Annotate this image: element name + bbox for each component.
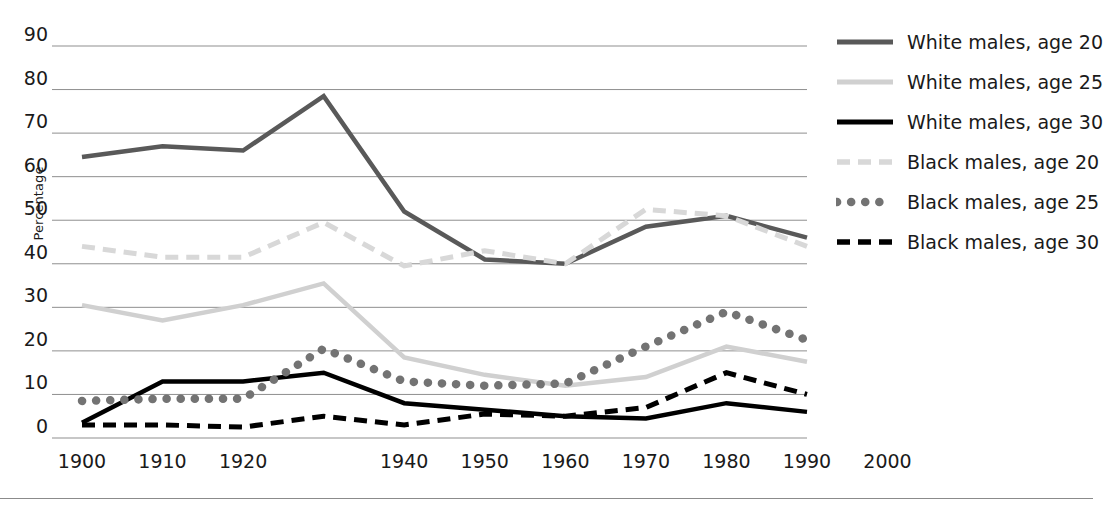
legend-swatch-icon xyxy=(836,155,894,169)
x-tick-label: 1960 xyxy=(530,452,600,471)
legend-item-label: Black males, age 30 xyxy=(907,233,1099,252)
x-tick-label: 2000 xyxy=(853,452,923,471)
x-tick-label: 1910 xyxy=(128,452,198,471)
legend-swatch-icon xyxy=(836,115,894,129)
legend-swatch-icon xyxy=(836,195,894,209)
chart-canvas xyxy=(0,0,830,480)
legend-item-label: Black males, age 25 xyxy=(907,193,1099,212)
x-tick-label: 1900 xyxy=(47,452,117,471)
x-tick-label: 1970 xyxy=(611,452,681,471)
legend-item-label: White males, age 30 xyxy=(907,113,1103,132)
x-tick-label: 1940 xyxy=(369,452,439,471)
legend-item-label: White males, age 25 xyxy=(907,73,1103,92)
x-tick-label: 1920 xyxy=(208,452,278,471)
y-tick-label: 90 xyxy=(8,25,48,44)
legend-item[interactable]: White males, age 20 xyxy=(836,22,1088,62)
legend-swatch-icon xyxy=(836,75,894,89)
x-tick-label: 1990 xyxy=(772,452,842,471)
y-tick-label: 10 xyxy=(8,373,48,392)
x-tick-label: 1980 xyxy=(691,452,761,471)
y-tick-label: 50 xyxy=(8,199,48,218)
y-tick-label: 30 xyxy=(8,286,48,305)
legend-item[interactable]: White males, age 25 xyxy=(836,62,1088,102)
y-tick-label: 40 xyxy=(8,243,48,262)
legend-item[interactable]: Black males, age 25 xyxy=(836,182,1088,222)
legend-item-label: Black males, age 20 xyxy=(907,153,1099,172)
legend-item-label: White males, age 20 xyxy=(907,33,1103,52)
legend-item[interactable]: Black males, age 30 xyxy=(836,222,1088,262)
legend-swatch-icon xyxy=(836,35,894,49)
chart-legend: White males, age 20White males, age 25Wh… xyxy=(836,22,1088,262)
series-line-1 xyxy=(82,283,807,385)
y-tick-label: 20 xyxy=(8,330,48,349)
legend-item[interactable]: Black males, age 20 xyxy=(836,142,1088,182)
y-tick-label: 80 xyxy=(8,69,48,88)
series-line-0 xyxy=(82,96,807,264)
plot-area: Percentage xyxy=(0,0,830,480)
y-tick-label: 0 xyxy=(8,417,48,436)
y-tick-label: 60 xyxy=(8,156,48,175)
legend-item[interactable]: White males, age 30 xyxy=(836,102,1088,142)
footer-rule xyxy=(0,498,1093,499)
x-tick-label: 1950 xyxy=(450,452,520,471)
legend-swatch-icon xyxy=(836,235,894,249)
y-tick-label: 70 xyxy=(8,112,48,131)
